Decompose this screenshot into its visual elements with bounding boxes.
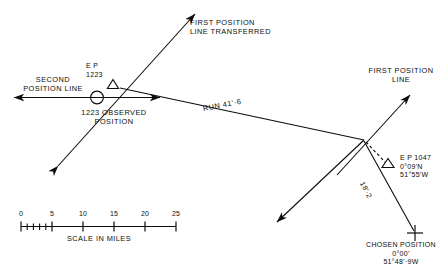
- scale-bar: [21, 222, 176, 232]
- ep1047-line-1: E P 1047: [400, 154, 448, 163]
- scale-bar-caption: SCALE IN MILES: [44, 234, 154, 243]
- label-observed-position: 1223 OBSERVED POSITION: [60, 108, 168, 126]
- label-first-position-line: FIRST POSITION LINE: [355, 66, 447, 84]
- ep1047-line-3: 51°55'W: [400, 171, 448, 180]
- chosen-line-3: 51°48'·9W: [355, 258, 447, 267]
- label-first-position-line-transferred: FIRST POSITION LINE TRANSFERRED: [190, 18, 271, 36]
- scale-tick-25: 25: [169, 209, 183, 218]
- scale-tick-10: 10: [76, 209, 90, 218]
- spl-line-2: POSITION LINE: [10, 84, 96, 93]
- ep-1047-triangle-icon: [382, 159, 394, 168]
- navigation-diagram: FIRST POSITION LINE TRANSFERRED SECOND P…: [0, 0, 448, 268]
- ep1223-line-1: E P: [86, 62, 120, 71]
- label-ep-1223: E P 1223: [86, 62, 120, 79]
- ep1223-line-2: 1223: [86, 71, 120, 80]
- ep-1047-dashed-connector: [366, 142, 385, 162]
- fplt-line-1: FIRST POSITION: [190, 18, 271, 27]
- ep1047-line-2: 0°09'N: [400, 163, 448, 172]
- chosen-position-cross-icon: [407, 225, 423, 241]
- fplt-line-2: LINE TRANSFERRED: [190, 27, 271, 36]
- ep-1223-triangle-icon: [107, 80, 118, 89]
- fpl-line-2: LINE: [355, 75, 447, 84]
- diagram-canvas: [0, 0, 448, 268]
- obspos-line-1: 1223 OBSERVED: [60, 108, 168, 117]
- scale-tick-0: 0: [14, 209, 28, 218]
- obspos-line-2: POSITION: [60, 117, 168, 126]
- scale-tick-15: 15: [107, 209, 121, 218]
- scale-tick-5: 5: [45, 209, 59, 218]
- label-second-position-line: SECOND POSITION LINE: [10, 75, 96, 93]
- first-position-line: [277, 95, 410, 222]
- chosen-line-2: 0°00': [355, 250, 447, 259]
- fpl-line-1: FIRST POSITION: [355, 66, 447, 75]
- chosen-line-1: CHOSEN POSITION: [355, 241, 447, 250]
- scale-tick-20: 20: [138, 209, 152, 218]
- label-chosen-position: CHOSEN POSITION 0°00' 51°48'·9W: [355, 241, 447, 267]
- label-ep-1047: E P 1047 0°09'N 51°55'W: [400, 154, 448, 180]
- spl-line-1: SECOND: [10, 75, 96, 84]
